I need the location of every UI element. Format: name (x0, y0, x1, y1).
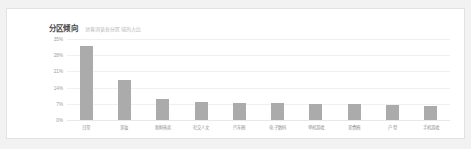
x-axis-tick-label: 汽车圈 (233, 124, 245, 130)
bar-group[interactable]: 社交人文 (182, 39, 220, 120)
bar[interactable] (195, 102, 208, 120)
y-axis-tick-label: 28% (37, 53, 63, 58)
chart-plot-frame: 0%7%14%21%28%35% 日常美妆新鲜热卖社交人文汽车圈电子数码单机游戏… (37, 39, 452, 135)
x-axis-tick-label: 单机游戏 (308, 124, 324, 130)
x-axis-tick-label: 手机游戏 (423, 124, 439, 130)
plot-area: 日常美妆新鲜热卖社交人文汽车圈电子数码单机游戏美食圈户型手机游戏 (67, 39, 450, 135)
bar-group[interactable]: 日常 (67, 39, 105, 120)
x-axis-tick-label: 日常 (82, 124, 90, 130)
bar[interactable] (80, 46, 93, 120)
y-axis-tick-label: 7% (37, 101, 63, 106)
bar[interactable] (424, 106, 437, 120)
bar-series: 日常美妆新鲜热卖社交人文汽车圈电子数码单机游戏美食圈户型手机游戏 (67, 39, 450, 120)
y-axis-tick-label: 14% (37, 85, 63, 90)
bar[interactable] (233, 103, 246, 120)
x-axis-tick-label: 电子数码 (269, 124, 285, 130)
bar-group[interactable]: 手机游戏 (412, 39, 450, 120)
bar-group[interactable]: 电子数码 (258, 39, 296, 120)
bar[interactable] (348, 104, 361, 120)
y-axis-tick-label: 21% (37, 69, 63, 74)
bar-group[interactable]: 户型 (373, 39, 411, 120)
x-axis-tick-label: 户型 (388, 124, 396, 130)
bar[interactable] (271, 103, 284, 120)
chart-subtitle: 访客浏览各分区域的占比 (85, 25, 141, 32)
bar[interactable] (386, 105, 399, 120)
x-axis-tick-label: 社交人文 (193, 124, 209, 130)
bar-group[interactable]: 汽车圈 (220, 39, 258, 120)
x-axis-tick-label: 美妆 (120, 124, 128, 130)
bar[interactable] (156, 99, 169, 120)
bar-group[interactable]: 单机游戏 (297, 39, 335, 120)
bar-group[interactable]: 新鲜热卖 (144, 39, 182, 120)
y-axis-tick-label: 0% (37, 118, 63, 123)
bar[interactable] (118, 80, 131, 121)
bar-group[interactable]: 美妆 (105, 39, 143, 120)
y-axis-tick-label: 35% (37, 37, 63, 42)
chart-title: 分区倾向 (49, 22, 78, 33)
chart-header: 分区倾向 访客浏览各分区域的占比 (49, 22, 141, 33)
x-axis-tick-label: 美食圈 (348, 124, 360, 130)
x-axis-tick-label: 新鲜热卖 (155, 124, 171, 130)
bar[interactable] (309, 104, 322, 120)
bar-group[interactable]: 美食圈 (335, 39, 373, 120)
chart-card: 分区倾向 访客浏览各分区域的占比 0%7%14%21%28%35% 日常美妆新鲜… (6, 8, 465, 139)
